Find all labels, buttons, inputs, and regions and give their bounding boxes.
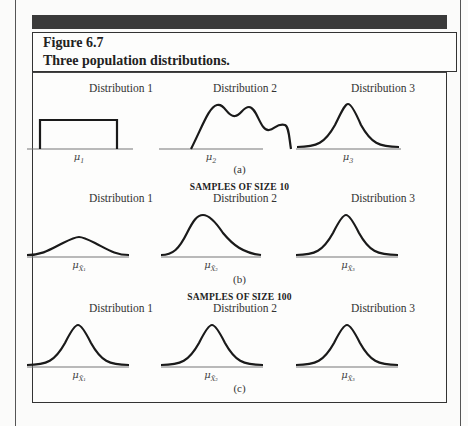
panel-c-dist3-normal-curve xyxy=(33,73,446,393)
page-right-rule xyxy=(460,0,461,426)
panel-c-mu1-label: μX̄₁ xyxy=(49,369,109,383)
page-left-rule xyxy=(15,0,16,426)
figure-title: Three population distributions. xyxy=(32,51,457,72)
figure-frame: Distribution 1 Distribution 2 Distributi… xyxy=(32,72,447,403)
header-bar xyxy=(32,15,447,29)
panel-c-mu3-label: μX̄₃ xyxy=(318,369,378,383)
panel-c-letter: (c) xyxy=(33,382,446,394)
figure-number: Figure 6.7 xyxy=(32,32,457,52)
panel-c-mu2-label: μX̄₂ xyxy=(181,369,241,383)
